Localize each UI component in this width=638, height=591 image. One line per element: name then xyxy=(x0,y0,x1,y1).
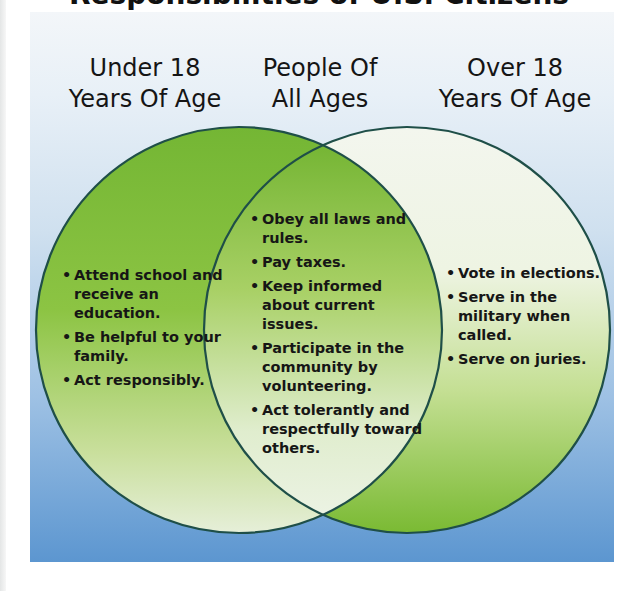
list-all-ages: Obey all laws and rules. Pay taxes. Keep… xyxy=(250,210,430,463)
list-item: Serve on juries. xyxy=(446,350,606,369)
list-over-18: Vote in elections. Serve in the military… xyxy=(446,264,606,374)
list-item: Attend school and receive an education. xyxy=(62,266,227,323)
header-over-18-line1: Over 18 xyxy=(400,53,630,84)
list-item: Obey all laws and rules. xyxy=(250,210,430,248)
list-item: Be helpful to your family. xyxy=(62,328,227,366)
header-all-ages: People Of All Ages xyxy=(215,53,425,115)
list-item: Act tolerantly and respectfully toward o… xyxy=(250,401,430,458)
list-item: Act responsibly. xyxy=(62,371,227,390)
list-item: Pay taxes. xyxy=(250,253,430,272)
list-item: Vote in elections. xyxy=(446,264,606,283)
header-over-18-line2: Years Of Age xyxy=(400,84,630,115)
list-item: Participate in the community by voluntee… xyxy=(250,339,430,396)
header-all-ages-line2: All Ages xyxy=(215,84,425,115)
header-over-18: Over 18 Years Of Age xyxy=(400,53,630,115)
list-item: Keep informed about current issues. xyxy=(250,277,430,334)
list-under-18: Attend school and receive an education. … xyxy=(62,266,227,395)
list-item: Serve in the military when called. xyxy=(446,288,606,345)
header-all-ages-line1: People Of xyxy=(215,53,425,84)
